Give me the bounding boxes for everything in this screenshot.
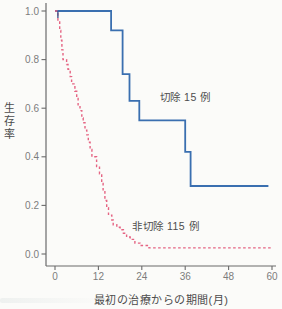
y-tick-label: 0.0 <box>25 249 39 260</box>
y-tick-label: 0.4 <box>25 151 39 162</box>
y-axis-title: 生存率 <box>3 102 14 141</box>
scan-artifact <box>0 298 105 303</box>
y-tick-label: 0.2 <box>25 200 39 211</box>
resected-label: 切除 15 例 <box>160 91 211 103</box>
unresected-curve <box>55 11 272 248</box>
x-tick-label: 12 <box>93 271 105 282</box>
y-tick-label: 0.8 <box>25 54 39 65</box>
unresected-label: 非切除 115 例 <box>132 220 199 232</box>
y-tick-label: 1.0 <box>25 6 39 17</box>
x-tick-label: 24 <box>136 271 148 282</box>
km-chart-canvas: 1.00.80.60.40.20.001224364860切除 15 例非切除 … <box>0 0 282 309</box>
x-tick-label: 0 <box>52 271 58 282</box>
x-tick-label: 60 <box>266 271 278 282</box>
survival-figure: 1.00.80.60.40.20.001224364860切除 15 例非切除 … <box>0 0 282 309</box>
x-tick-label: 48 <box>223 271 235 282</box>
y-tick-label: 0.6 <box>25 103 39 114</box>
x-tick-label: 36 <box>180 271 192 282</box>
